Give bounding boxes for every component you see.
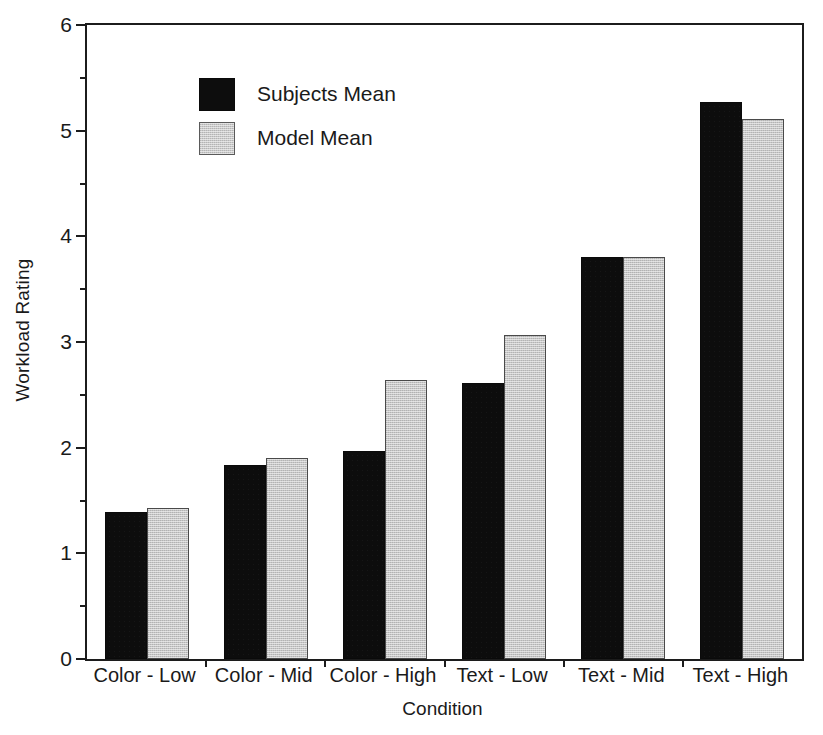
y-tick-minor bbox=[80, 605, 87, 607]
bar-subjects-mean bbox=[224, 465, 266, 659]
x-tick-label: Text - Low bbox=[457, 664, 548, 687]
bar-model-mean bbox=[504, 335, 546, 659]
x-tick bbox=[444, 659, 446, 667]
y-tick-major bbox=[76, 341, 87, 343]
bar-subjects-mean bbox=[581, 257, 623, 659]
x-tick-label: Color - High bbox=[330, 664, 437, 687]
plot-area: 0123456 bbox=[85, 23, 804, 661]
y-tick-label: 4 bbox=[60, 224, 72, 248]
bar-subjects-mean bbox=[105, 512, 147, 659]
bar-subjects-mean bbox=[343, 451, 385, 659]
x-axis-title: Condition bbox=[85, 698, 800, 720]
y-tick-minor bbox=[80, 77, 87, 79]
chart-legend: Subjects Mean Model Mean bbox=[199, 72, 396, 160]
legend-swatch-model-mean-icon bbox=[199, 122, 235, 155]
x-tick-label: Text - High bbox=[693, 664, 789, 687]
bar-model-mean bbox=[623, 257, 665, 659]
x-tick bbox=[682, 659, 684, 667]
x-tick bbox=[324, 659, 326, 667]
legend-swatch-subjects-mean-icon bbox=[199, 78, 235, 111]
x-axis-title-text: Condition bbox=[402, 698, 482, 719]
y-tick-label: 6 bbox=[60, 13, 72, 37]
x-tick-label: Color - Mid bbox=[215, 664, 313, 687]
y-tick-minor bbox=[80, 183, 87, 185]
bar-model-mean bbox=[385, 380, 427, 659]
workload-rating-bar-chart: Workload Rating 0123456 Color - LowColor… bbox=[0, 0, 823, 735]
x-tick-label: Text - Mid bbox=[578, 664, 665, 687]
bar-subjects-mean bbox=[700, 102, 742, 659]
legend-item-model-mean: Model Mean bbox=[199, 116, 396, 160]
bar-subjects-mean bbox=[462, 383, 504, 659]
y-tick-label: 2 bbox=[60, 436, 72, 460]
legend-item-subjects-mean: Subjects Mean bbox=[199, 72, 396, 116]
bar-model-mean bbox=[147, 508, 189, 659]
y-tick-major bbox=[76, 552, 87, 554]
legend-label-subjects-mean: Subjects Mean bbox=[257, 82, 396, 106]
y-tick-label: 1 bbox=[60, 541, 72, 565]
y-tick-minor bbox=[80, 394, 87, 396]
y-tick-major bbox=[76, 235, 87, 237]
bar-model-mean bbox=[742, 119, 784, 659]
bar-model-mean bbox=[266, 458, 308, 659]
x-tick-label: Color - Low bbox=[93, 664, 195, 687]
legend-label-model-mean: Model Mean bbox=[257, 126, 373, 150]
y-axis-title-text: Workload Rating bbox=[12, 258, 34, 401]
y-axis-title: Workload Rating bbox=[0, 0, 46, 660]
y-tick-major bbox=[76, 24, 87, 26]
x-tick bbox=[563, 659, 565, 667]
y-tick-major bbox=[76, 447, 87, 449]
y-tick-label: 5 bbox=[60, 119, 72, 143]
y-tick-major bbox=[76, 658, 87, 660]
y-tick-minor bbox=[80, 500, 87, 502]
y-tick-major bbox=[76, 130, 87, 132]
y-tick-label: 3 bbox=[60, 330, 72, 354]
y-tick-minor bbox=[80, 288, 87, 290]
x-tick bbox=[205, 659, 207, 667]
y-tick-label: 0 bbox=[60, 647, 72, 671]
